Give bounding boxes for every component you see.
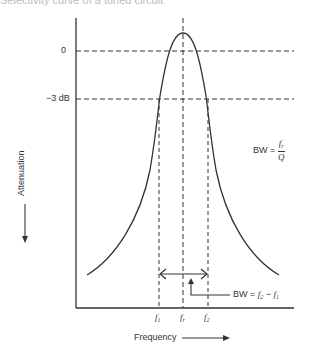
tick-0db: 0 [61,45,66,55]
tick-fr: fr [180,312,185,323]
tick-f1: f1 [155,312,161,323]
tick-f2: f2 [204,312,210,323]
bw-leader-line [191,283,230,295]
fraction: fr Q [278,138,285,162]
attenuation-arrowhead-icon [22,236,28,243]
frequency-arrowhead-icon [223,335,230,341]
selectivity-diagram [0,0,312,357]
x-axis-label: Frequency [134,332,177,342]
tick-minus-3db: −3 dB [46,93,70,103]
bw-diff-formula: BW = f2 − f1 [233,289,279,300]
bw-ratio-formula: BW = fr Q [253,138,285,162]
leader-arrowhead-icon [188,278,194,284]
y-axis-label: Attenuation [16,150,26,196]
